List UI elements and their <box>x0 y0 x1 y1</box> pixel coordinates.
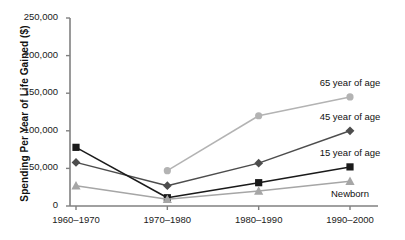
data-point-diamond <box>72 158 81 167</box>
series-line <box>167 116 258 171</box>
data-point-diamond <box>163 181 172 190</box>
series-line <box>76 147 167 197</box>
data-point-circle <box>255 112 262 119</box>
plot-area <box>0 0 405 240</box>
series-line <box>167 163 258 186</box>
series-diamond <box>72 126 355 190</box>
series-line <box>76 186 167 200</box>
data-point-triangle <box>345 177 354 185</box>
series-line <box>259 167 350 183</box>
data-point-square <box>72 144 79 151</box>
data-point-circle <box>164 167 171 174</box>
data-point-triangle <box>71 181 80 189</box>
data-point-circle <box>346 93 353 100</box>
series-line <box>259 97 350 116</box>
data-point-diamond <box>254 159 263 168</box>
series-line <box>259 131 350 163</box>
axes <box>66 18 378 210</box>
data-point-square <box>346 163 353 170</box>
series-line <box>259 181 350 191</box>
data-point-diamond <box>346 126 355 135</box>
data-point-square <box>255 179 262 186</box>
chart-container: Spending Per Year of Life Gained ($) 050… <box>0 0 405 240</box>
series-line <box>76 162 167 185</box>
